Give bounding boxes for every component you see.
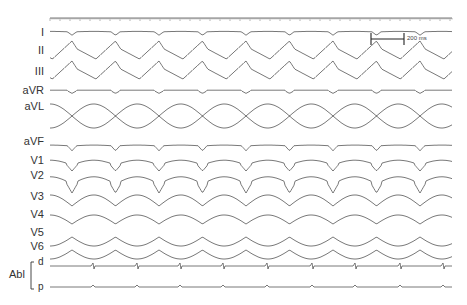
trace-III (50, 61, 452, 79)
trace-V2 (50, 177, 452, 193)
ecg-traces (50, 31, 452, 287)
trace-aVF (50, 145, 452, 151)
trace-aVL (50, 104, 452, 116)
lead-label-V1: V1 (0, 154, 44, 166)
abl-bracket (31, 262, 34, 289)
lead-label-I: I (0, 26, 44, 38)
trace-V6 (50, 250, 452, 259)
trace-II (50, 41, 452, 59)
trace-aVL-lower (50, 116, 452, 128)
ecg-figure (0, 0, 467, 305)
trace-I (50, 31, 452, 35)
lead-label-aVL: aVL (0, 100, 44, 112)
scale-bar-label: 200 ms (407, 35, 427, 41)
lead-label-aVF: aVF (0, 135, 44, 147)
lead-label-aVR: aVR (0, 84, 44, 96)
lead-label-V5: V5 (0, 226, 44, 238)
abl-channel-p-label: p (38, 281, 44, 292)
trace-V5 (50, 237, 452, 246)
trace-V4 (50, 215, 452, 224)
lead-label-V3: V3 (0, 190, 44, 202)
trace-aVR (50, 90, 452, 93)
trace-V3 (50, 195, 452, 206)
lead-label-V6: V6 (0, 240, 44, 252)
lead-label-V4: V4 (0, 208, 44, 220)
lead-label-V2: V2 (0, 169, 44, 181)
trace-V1 (50, 160, 452, 171)
abl-trace-d (50, 263, 452, 269)
lead-label-III: III (0, 65, 44, 77)
abl-channel-d-label: d (38, 256, 44, 267)
abl-trace-p (50, 285, 452, 287)
lead-label-II: II (0, 44, 44, 56)
abl-label: Abl (9, 268, 25, 280)
time-ruler (50, 18, 452, 21)
